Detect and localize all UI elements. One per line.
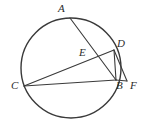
geometry-canvas bbox=[0, 0, 149, 129]
segment-ab bbox=[70, 18, 116, 80]
vertex-label-a: A bbox=[58, 3, 65, 14]
vertex-label-c: C bbox=[11, 80, 18, 91]
circle-outline bbox=[21, 18, 121, 118]
vertex-label-d: D bbox=[117, 38, 125, 49]
vertex-label-f: F bbox=[130, 80, 137, 91]
vertex-label-e: E bbox=[79, 47, 86, 58]
geometry-figure: A D E C B F bbox=[0, 0, 149, 129]
vertex-label-b: B bbox=[116, 80, 123, 91]
